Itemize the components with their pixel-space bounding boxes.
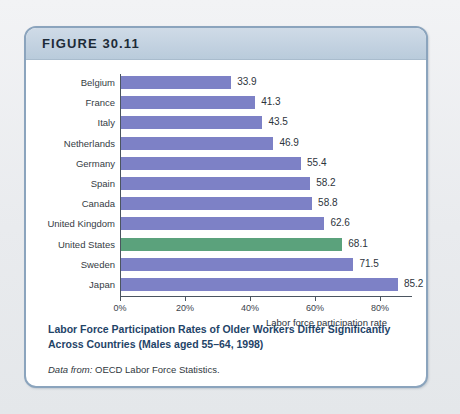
- bar-value-label: 41.3: [261, 96, 280, 107]
- bar: [121, 116, 262, 129]
- bar-value-label: 55.4: [307, 157, 326, 168]
- bar-row: France41.3: [121, 94, 413, 114]
- page-root: FIGURE 30.11 0%20%40%60%80% Belgium33.9F…: [0, 0, 460, 414]
- caption-block: Labor Force Participation Rates of Older…: [26, 322, 426, 376]
- bar-row: Sweden71.5: [121, 256, 413, 276]
- category-label: France: [85, 97, 115, 108]
- x-axis-tick: [120, 296, 121, 301]
- bar-value-label: 62.6: [330, 217, 349, 228]
- bar-value-label: 58.2: [316, 177, 335, 188]
- category-label: Canada: [82, 198, 115, 209]
- bar-row: Belgium33.9: [121, 74, 413, 94]
- bar-row: Netherlands46.9: [121, 135, 413, 155]
- bar-value-label: 58.8: [318, 197, 337, 208]
- bar: [121, 157, 301, 170]
- bar-value-label: 71.5: [359, 258, 378, 269]
- category-label: Sweden: [81, 259, 115, 270]
- chart-plot-area: 0%20%40%60%80% Belgium33.9France41.3Ital…: [26, 60, 426, 322]
- category-label: Japan: [89, 279, 115, 290]
- bar: [121, 137, 273, 150]
- x-axis-tick: [380, 296, 381, 301]
- source-text: OECD Labor Force Statistics.: [92, 364, 219, 375]
- bar: [121, 76, 231, 89]
- bar-rows: Belgium33.9France41.3Italy43.5Netherland…: [121, 74, 413, 296]
- figure-number-label: FIGURE 30.11: [42, 36, 140, 51]
- figure-source: Data from: OECD Labor Force Statistics.: [48, 363, 404, 376]
- category-label: United States: [58, 239, 115, 250]
- bar-row: United Kingdom62.6: [121, 215, 413, 235]
- bar-row: United States68.1: [121, 236, 413, 256]
- category-label: Italy: [98, 117, 115, 128]
- x-axis-tick-label: 40%: [241, 303, 259, 313]
- bar-value-label: 46.9: [279, 137, 298, 148]
- bar-value-label: 33.9: [237, 76, 256, 87]
- x-axis-tick-label: 60%: [306, 303, 324, 313]
- x-axis-tick: [315, 296, 316, 301]
- bar-row: Spain58.2: [121, 175, 413, 195]
- figure-caption: Labor Force Participation Rates of Older…: [48, 322, 404, 352]
- bar: [121, 177, 310, 190]
- category-label: Spain: [91, 178, 115, 189]
- x-axis-tick: [250, 296, 251, 301]
- bar-row: Germany55.4: [121, 155, 413, 175]
- bar-value-label: 85.2: [404, 278, 423, 289]
- bar-value-label: 68.1: [348, 238, 367, 249]
- category-label: Netherlands: [64, 138, 115, 149]
- bar-row: Japan85.2: [121, 276, 413, 296]
- category-label: Germany: [76, 158, 115, 169]
- bar-value-label: 43.5: [268, 116, 287, 127]
- bar: [121, 197, 312, 210]
- bar-row: Canada58.8: [121, 195, 413, 215]
- figure-box: FIGURE 30.11 0%20%40%60%80% Belgium33.9F…: [24, 26, 428, 388]
- x-axis-tick-label: 20%: [176, 303, 194, 313]
- x-axis-tick-label: 80%: [371, 303, 389, 313]
- bar-chart: 0%20%40%60%80% Belgium33.9France41.3Ital…: [120, 74, 380, 296]
- x-axis-tick-label: 0%: [113, 303, 126, 313]
- category-label: United Kingdom: [47, 218, 115, 229]
- bar: [121, 258, 353, 271]
- bar: [121, 96, 255, 109]
- x-axis-tick: [185, 296, 186, 301]
- bar: [121, 217, 324, 230]
- bar: [121, 278, 398, 291]
- bar: [121, 238, 342, 251]
- bar-row: Italy43.5: [121, 114, 413, 134]
- source-lead-label: Data from:: [48, 364, 92, 375]
- category-label: Belgium: [81, 77, 115, 88]
